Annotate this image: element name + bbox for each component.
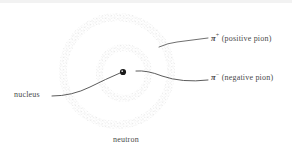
pi-minus-superscript: − — [216, 71, 220, 77]
nucleus-dot — [120, 69, 126, 75]
pi-minus-text: (negative pion) — [222, 73, 274, 82]
label-positive-pion: π+ (positive pion) — [211, 34, 272, 43]
label-nucleus: nucleus — [14, 91, 40, 99]
pi-plus-superscript: + — [216, 32, 220, 38]
nucleus-dot-highlight — [121, 70, 123, 72]
pion-cloud-figure: π+ (positive pion) π− (negative pion) nu… — [0, 0, 292, 156]
label-negative-pion: π− (negative pion) — [211, 73, 273, 82]
pi-plus-text: (positive pion) — [222, 34, 272, 43]
label-neutron: neutron — [113, 136, 139, 144]
